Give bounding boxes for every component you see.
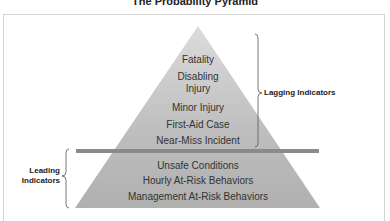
- leading-indicators-label: Leading Indicators: [18, 166, 60, 186]
- level-unsafe-conditions: Unsafe Conditions: [157, 160, 239, 172]
- leading-label-line1: Leading: [18, 166, 60, 176]
- level-first-aid-case: First-Aid Case: [166, 119, 229, 131]
- divider-bar: [76, 149, 319, 153]
- level-fatality: Fatality: [182, 54, 214, 66]
- level-hourly-at-risk: Hourly At-Risk Behaviors: [143, 175, 254, 187]
- leading-label-line2: Indicators: [18, 176, 60, 186]
- lagging-indicators-label: Lagging Indicators: [264, 88, 336, 98]
- level-disabling-injury: Disabling Injury: [168, 71, 228, 95]
- level-near-miss-incident: Near-Miss Incident: [156, 135, 239, 147]
- level-management-at-risk: Management At-Risk Behaviors: [128, 191, 268, 203]
- leading-brace-icon: [62, 149, 69, 208]
- level-minor-injury: Minor Injury: [172, 102, 224, 114]
